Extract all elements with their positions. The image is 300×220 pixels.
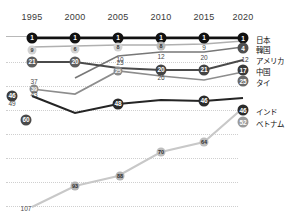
- point-usa-2015: 20: [200, 55, 207, 62]
- legend-value-india: 46: [238, 105, 249, 116]
- line-vietnam: [32, 108, 243, 207]
- point-japan-2015: 1: [199, 33, 210, 44]
- point-vietnam-2000: 93: [71, 182, 80, 191]
- point-vietnam-2005: 88: [116, 172, 125, 181]
- point-korea-2005: 8: [114, 43, 123, 52]
- point-china-2015: 21: [199, 65, 210, 76]
- point-thai-2005: 25: [114, 67, 123, 76]
- legend-label-india: インド: [256, 106, 277, 117]
- point-korea-2010: 8: [157, 42, 166, 51]
- ranking-line-chart: 1995 2000 2005 2010 2015 2020 1 1 1 1 1 …: [0, 0, 300, 220]
- point-usa-2010: 12: [157, 54, 164, 61]
- point-japan-2000: 1: [70, 33, 81, 44]
- point-india-extra-49: 49: [8, 101, 15, 108]
- legend-label-korea: 韓国: [256, 44, 270, 55]
- point-korea-2015: 9: [202, 45, 206, 52]
- legend-label-usa: アメリカ: [256, 55, 284, 66]
- legend-value-korea: 4: [238, 43, 249, 54]
- point-korea-2000: 6: [71, 45, 80, 54]
- point-india-extra-60: 60: [21, 115, 32, 126]
- legend-value-thai: 25: [238, 76, 249, 87]
- series-lines: [0, 0, 300, 220]
- point-china-2000: 20: [70, 57, 81, 68]
- line-china: [32, 60, 243, 70]
- point-vietnam-2010: 70: [157, 148, 166, 157]
- line-thai: [32, 71, 243, 94]
- legend-value-usa: 12: [241, 56, 248, 63]
- point-japan-1995: 1: [27, 33, 38, 44]
- legend-label-china: 中国: [256, 66, 270, 77]
- legend-label-thai: タイ: [256, 77, 270, 88]
- point-china-1995: 21: [27, 57, 38, 68]
- line-korea: [32, 41, 243, 47]
- point-india-2000: 43: [30, 92, 37, 99]
- legend-label-vietnam: ベトナム: [256, 118, 284, 129]
- point-india-2015: 46: [199, 96, 210, 107]
- point-vietnam-2015: 64: [200, 138, 209, 147]
- point-korea-1995: 9: [28, 46, 37, 55]
- point-thai-2010: 26: [157, 75, 164, 82]
- line-india: [32, 96, 243, 113]
- point-vietnam-1995: 107: [21, 206, 32, 213]
- point-india-2005: 48: [113, 99, 124, 110]
- point-china-2005: 23: [116, 60, 123, 67]
- legend-value-vietnam: 52: [238, 117, 249, 128]
- legend-value-china: 17: [238, 65, 249, 76]
